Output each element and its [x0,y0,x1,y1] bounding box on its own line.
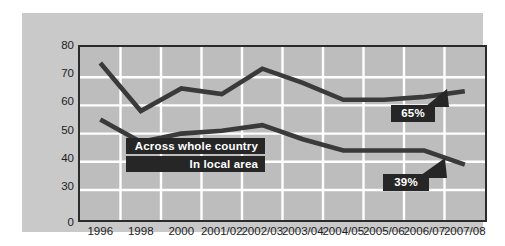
x-axis-tick: 2002/03 [241,225,283,237]
x-axis-tick: 2000 [168,225,194,237]
callout-65-percent: 65% [391,105,435,122]
y-axis-tick: 30 [44,180,74,192]
plot-area [78,45,487,222]
x-axis-tick: 1996 [87,225,113,237]
y-axis-tick: 60 [44,95,74,107]
data-lines [80,47,485,220]
x-axis-tick: 2006/07 [403,225,445,237]
callout-39-percent: 39% [383,174,429,191]
chart-legend: Across whole country In local area [126,138,265,172]
x-axis-tick: 2003/04 [282,225,324,237]
y-axis-tick: 0 [44,216,74,228]
legend-item-in-local-area: In local area [126,156,265,172]
x-axis-tick: 2001/02 [201,225,243,237]
chart-panel: 80 70 60 50 40 30 0 1996199820002001/022… [22,13,483,232]
y-axis-tick: 40 [44,152,74,164]
x-axis-tick: 2007/08 [444,225,486,237]
x-axis-tick: 2005/06 [363,225,405,237]
y-axis-tick: 50 [44,124,74,136]
line-across-whole-country [100,63,465,111]
y-axis-tick: 80 [44,39,74,51]
y-axis-tick: 70 [44,67,74,79]
chart-figure: 80 70 60 50 40 30 0 1996199820002001/022… [0,0,505,246]
x-axis-tick: 1998 [128,225,154,237]
legend-item-across-whole-country: Across whole country [126,138,265,154]
x-axis-tick: 2004/05 [322,225,364,237]
x-axis: 1996199820002001/022002/032003/042004/05… [78,225,487,243]
y-axis: 80 70 60 50 40 30 0 [42,45,74,222]
